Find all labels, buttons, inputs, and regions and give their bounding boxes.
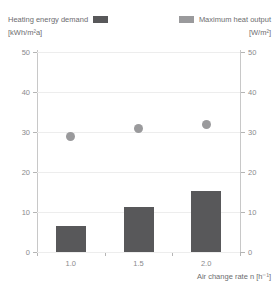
- y-axis-right-tick-mark: [241, 92, 245, 93]
- legend-entry-heating-energy-demand: Heating energy demand [kWh/m²a]: [8, 14, 108, 38]
- y-axis-left-tick-label: 20: [8, 168, 30, 177]
- x-axis-tick-label: 1.5: [119, 259, 159, 268]
- gridline: [37, 252, 240, 253]
- y-axis-right-tick-label: 20: [248, 168, 270, 177]
- y-axis-right-tick-mark: [241, 172, 245, 173]
- legend-swatch-bar-icon: [93, 16, 108, 23]
- y-axis-left-tick-label: 0: [8, 248, 30, 257]
- gridline: [37, 52, 240, 53]
- chart-legend: Heating energy demand [kWh/m²a] Maximum …: [0, 14, 277, 44]
- y-axis-right-tick-mark: [241, 132, 245, 133]
- data-point: [66, 132, 75, 141]
- y-axis-left-tick-label: 50: [8, 48, 30, 57]
- data-point: [134, 124, 143, 133]
- chart-container: Heating energy demand [kWh/m²a] Maximum …: [0, 0, 277, 289]
- legend-label-maximum-heat-output: Maximum heat output: [199, 14, 271, 25]
- gridline: [37, 92, 240, 93]
- legend-swatch-dot-icon: [179, 16, 194, 23]
- bar: [56, 226, 86, 252]
- x-axis-title: Air change rate n [h⁻¹]: [197, 272, 271, 281]
- y-axis-right-tick-label: 0: [248, 248, 270, 257]
- legend-row-left: Heating energy demand: [8, 14, 108, 25]
- x-axis-tick-mark: [240, 252, 241, 256]
- x-axis-tick-label: 2.0: [186, 259, 226, 268]
- y-axis-right-tick-mark: [241, 52, 245, 53]
- y-axis-right-line: [240, 50, 241, 254]
- y-axis-right-tick-label: 10: [248, 208, 270, 217]
- gridline: [37, 172, 240, 173]
- legend-entry-maximum-heat-output: Maximum heat output [W/m²]: [179, 14, 271, 38]
- y-axis-right-tick-label: 40: [248, 88, 270, 97]
- y-axis-left-tick-label: 40: [8, 88, 30, 97]
- bar: [124, 207, 154, 252]
- y-axis-right-tick-mark: [241, 212, 245, 213]
- x-axis-tick-label: 1.0: [51, 259, 91, 268]
- legend-unit-right: [W/m²]: [179, 27, 271, 38]
- y-axis-right-tick-mark: [241, 252, 245, 253]
- bar: [191, 191, 221, 252]
- legend-label-heating-energy-demand: Heating energy demand: [8, 14, 88, 25]
- data-point: [202, 120, 211, 129]
- legend-row-right: Maximum heat output: [179, 14, 271, 25]
- y-axis-right-tick-label: 50: [248, 48, 270, 57]
- y-axis-right-tick-label: 30: [248, 128, 270, 137]
- plot-area: [37, 52, 240, 252]
- legend-unit-left: [kWh/m²a]: [8, 27, 108, 38]
- y-axis-left-tick-label: 30: [8, 128, 30, 137]
- y-axis-left-tick-label: 10: [8, 208, 30, 217]
